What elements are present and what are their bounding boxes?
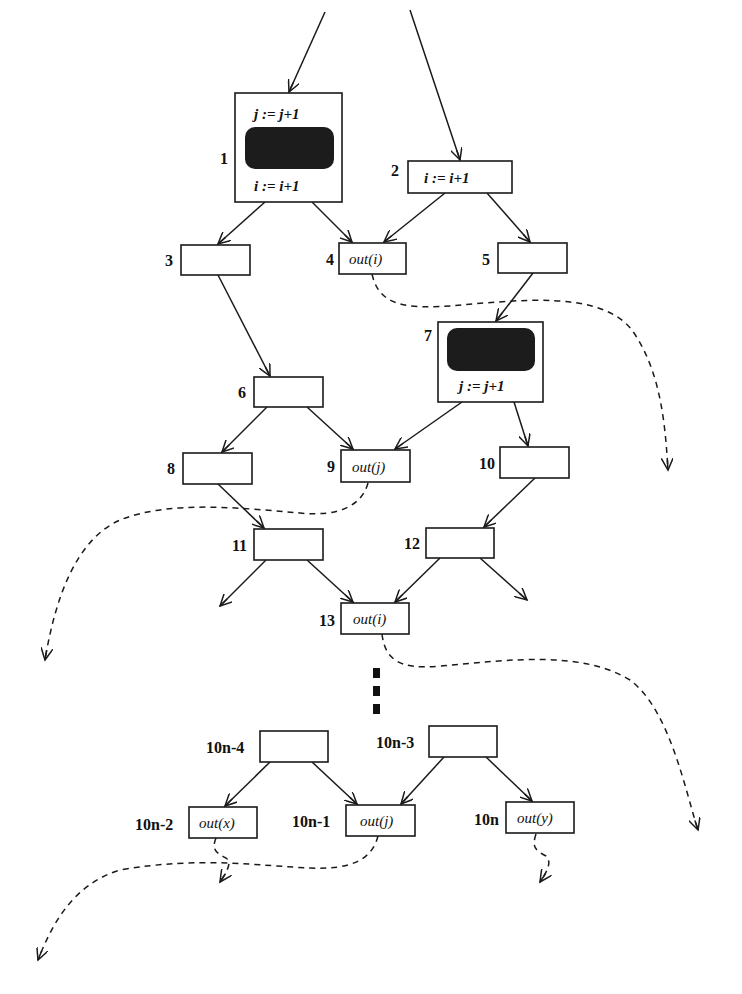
node-12: 12 <box>404 528 494 558</box>
node-10n-3: 10n-3 <box>376 726 497 757</box>
edge-5-7 <box>496 273 533 321</box>
node-12-label: 12 <box>404 535 420 552</box>
node-10n: out(y) 10n <box>474 802 574 833</box>
edge-10n3-10n <box>486 757 532 801</box>
node-4-stmt: out(i) <box>349 251 382 268</box>
edge-7-9 <box>395 402 462 449</box>
dashed-edge-10n-1 <box>38 836 378 960</box>
edge-2-5 <box>487 193 530 242</box>
node-8: 8 <box>167 453 252 484</box>
edge-10n4-10n1 <box>312 762 357 804</box>
node-5: 5 <box>482 243 567 273</box>
node-10n-1-label: 10n-1 <box>292 813 330 830</box>
edge-10n4-10n2 <box>225 762 270 806</box>
node-10n-4-label: 10n-4 <box>206 739 244 756</box>
control-flow-graph: j := j+1 i := i+1 1 i := i+1 2 3 out(i) … <box>0 0 742 994</box>
edge-10n3-10n1 <box>401 757 444 804</box>
edge-6-8 <box>222 407 267 452</box>
node-2: i := i+1 2 <box>391 161 512 193</box>
edge-3-6 <box>218 275 270 376</box>
edge-11-13 <box>307 560 353 602</box>
node-10n-1-stmt: out(j) <box>360 813 393 830</box>
node-3-label: 3 <box>165 252 173 269</box>
node-2-stmt: i := i+1 <box>424 170 469 186</box>
node-4-label: 4 <box>326 251 334 268</box>
vertical-ellipsis <box>373 668 380 714</box>
edge-1-3 <box>218 202 265 244</box>
node-10n-2-stmt: out(x) <box>199 815 235 832</box>
node-8-label: 8 <box>167 460 175 477</box>
edge-10-12 <box>484 478 535 527</box>
node-9-stmt: out(j) <box>352 459 385 476</box>
edge-7-10 <box>514 402 528 446</box>
node-1-stmt-j: j := j+1 <box>252 106 299 122</box>
node-13-label: 13 <box>319 612 335 629</box>
edge-8-11 <box>218 484 264 528</box>
node-7-label: 7 <box>424 327 432 344</box>
node-10n-2: out(x) 10n-2 <box>135 807 257 838</box>
node-3: 3 <box>165 245 250 275</box>
node-10n-label: 10n <box>474 811 499 828</box>
node-1-stmt-i: i := i+1 <box>254 178 299 194</box>
node-7: j := j+1 7 <box>424 322 543 402</box>
node-7-redacted-block <box>447 328 535 371</box>
node-10n-stmt: out(y) <box>517 810 553 827</box>
node-4: out(i) 4 <box>326 243 406 274</box>
edge-12-exit <box>480 558 527 600</box>
edge-2-4 <box>384 193 445 242</box>
edge-entry-1 <box>289 12 325 92</box>
edge-12-13 <box>395 558 440 602</box>
node-10n-4: 10n-4 <box>206 731 328 762</box>
edge-11-exit <box>220 560 266 606</box>
node-6: 6 <box>238 377 323 407</box>
node-1-label: 1 <box>220 150 228 167</box>
node-5-label: 5 <box>482 251 490 268</box>
node-10n-2-label: 10n-2 <box>135 816 173 833</box>
node-10n-3-label: 10n-3 <box>376 734 414 751</box>
node-1: j := j+1 i := i+1 1 <box>220 93 342 202</box>
node-13: out(i) 13 <box>319 603 409 634</box>
node-7-stmt-j: j := j+1 <box>457 378 504 394</box>
edge-1-4 <box>312 202 352 242</box>
node-11: 11 <box>232 529 323 560</box>
node-1-redacted-block <box>245 127 334 169</box>
node-9: out(j) 9 <box>327 450 410 482</box>
node-6-label: 6 <box>238 384 246 401</box>
node-13-stmt: out(i) <box>353 611 386 628</box>
edge-6-9 <box>307 407 353 449</box>
node-11-label: 11 <box>232 537 247 554</box>
node-9-label: 9 <box>327 458 335 475</box>
dashed-edge-10n <box>534 834 549 882</box>
node-10-label: 10 <box>479 455 495 472</box>
node-10n-1: out(j) 10n-1 <box>292 805 415 836</box>
node-10: 10 <box>479 447 569 478</box>
node-2-label: 2 <box>391 162 399 179</box>
edge-entry-2 <box>410 10 460 160</box>
dashed-edge-10n-2 <box>214 838 229 882</box>
